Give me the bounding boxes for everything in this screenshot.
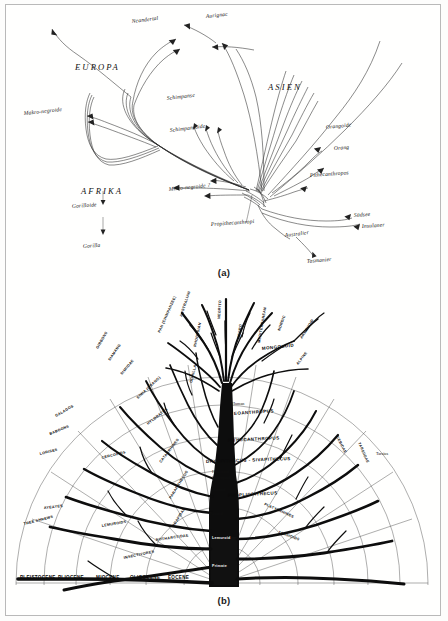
lower-label-ayeayes: AYEAYES [44,504,64,510]
label-gorilla: Gorilla [83,242,101,249]
region-label-asien: ASIEN [267,82,302,92]
lower-label-galagos: GALAGOS [55,404,75,418]
sc-label-human: Human [232,401,245,406]
label-schimpanse: Schimpanse [166,92,195,101]
label-makro-negroide: Makro-negroide [22,106,62,116]
caption-a: (a) [6,267,442,278]
region-label-afrika: AFRIKA [80,186,123,196]
label-insulaner: Insulaner [361,221,386,229]
panel-a-migration-map: EUROPA ASIEN AFRIKA Neandertal Aurignac … [6,5,442,287]
epoch-oligocene: OLIGOCENE [130,575,160,580]
label-orang: Orang [334,144,350,151]
caption-b: (b) [6,595,442,606]
mid-label-hylobates: HYLOBATES [146,407,168,426]
lower-label-baboons: BABOONS [49,424,70,436]
figure-frame: EUROPA ASIEN AFRIKA Neandertal Aurignac … [5,4,441,616]
label-tasmanier: Tasmanier [307,256,333,264]
mid-label-gibbons: GIBBONS [95,331,108,350]
figure-page: EUROPA ASIEN AFRIKA Neandertal Aurignac … [0,0,448,621]
label-gorilloide: Gorilloide [72,201,98,209]
mid-label-pan-chimpanzee: PAN (CHIMPANZEE) [157,295,177,334]
label-orangoide: Orangoide [325,121,351,130]
epoch-pliocene: PLIOCENE [58,575,84,580]
epoch-pleistocene: PLEISTOCENE [20,575,56,580]
label-aurignac: Aurignac [204,11,228,19]
label-neandertal: Neandertal [130,15,158,24]
label-suedsee: Südsee [354,211,371,218]
label-propithecanthropi: Propithecanthropi [210,218,255,227]
label-pithecanthropos: Pithecanthropos [309,169,349,178]
mid-label-tarsiidae: TARSIIDAE [357,442,370,464]
sc-label-simioid: Simioid [212,487,226,492]
sc-label-tarsioid: Tarsioid [209,511,224,516]
panel-a-drawing: EUROPA ASIEN AFRIKA Neandertal Aurignac … [6,5,442,287]
crown-label-rhodesian: RHODESIAN [193,322,202,347]
mid-label-simiidae: SIMIIDAE [120,358,135,375]
mid-label-siamang: SIAMANG [108,343,122,361]
region-label-europa: EUROPA [74,62,120,72]
panel-b-drawing: AUSTRALIAN RHODESIAN NEGRITO NEGRO MEDIT… [6,287,442,617]
crown-label-negrito: NEGRITO [217,300,222,319]
label-mikro-negroide: Mikro-negroide ? [167,182,210,192]
label-australier: Australier [283,229,309,238]
sc-label-hominoid: Hominoid [212,469,230,474]
crown-label-gorilla: GORILLA [189,364,197,383]
lower-label-lorises: LORISES [39,448,58,456]
crown-label-nordic: NORDIC [277,315,286,332]
epoch-eocene: EOCENE [168,575,189,580]
crown-label-armenoid: ARMENOID [299,318,314,339]
mid-label-cebidae: CEBIDAE [335,436,347,455]
crown-label-alpine: ALPINE [296,351,309,366]
sc-label-tarsius: Tarsius [376,451,388,456]
lower-label-lemuroids: LEMUROIDS [101,520,126,528]
lower-label-tree-shrews: TREE SHREWS [23,515,54,526]
sc-label-primate: Primate [212,564,227,568]
mid-label-pithecanthropus: PITHECANTHROPUS [228,435,280,443]
sc-label-lemuroid: Lemuroid [212,536,230,540]
panel-b-phylogenetic-tree: AUSTRALIAN RHODESIAN NEGRITO NEGRO MEDIT… [6,287,442,617]
lower-label-notharctidae: NOTHARCTIDAE [156,533,190,542]
crown-label-australian: AUSTRALIAN [179,290,191,317]
epoch-miocene: MIOCENE [96,575,120,580]
label-schimpansoide: Schimpansoide [169,123,206,133]
crown-label-mediterranean: MEDITERRANEAN [257,307,267,343]
sc-label-anthropoid: Anthropoid [211,475,231,480]
